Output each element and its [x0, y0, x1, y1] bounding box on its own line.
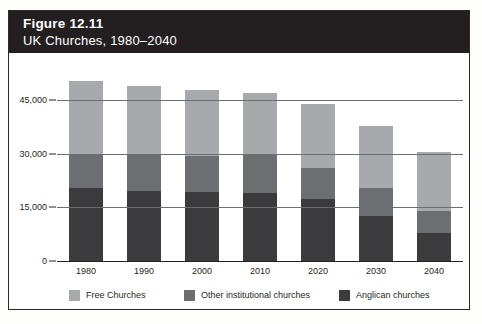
figure-title-banner: Figure 12.11 UK Churches, 1980–2040: [9, 11, 469, 53]
bar-segment-other-institutional-churches[interactable]: [301, 168, 335, 199]
figure-number: Figure 12.11: [23, 16, 469, 32]
legend-swatch-anglican: [339, 290, 350, 301]
legend-label: Other institutional churches: [201, 290, 310, 300]
x-axis-tick-label: 1980: [57, 266, 115, 276]
x-axis-tick-label: 1990: [115, 266, 173, 276]
plot-area: 1980199020002010202020302040: [57, 53, 463, 310]
y-axis-tick-label: 45,000: [19, 95, 47, 105]
bar-stack[interactable]: [127, 86, 161, 261]
x-axis-baseline: [57, 261, 463, 262]
bar-segment-other-institutional-churches[interactable]: [185, 156, 219, 192]
bar-segment-free-churches[interactable]: [243, 93, 277, 156]
legend-item[interactable]: Free Churches: [69, 288, 146, 302]
figure-page: Figure 12.11 UK Churches, 1980–2040 015,…: [0, 0, 482, 324]
chart-legend: Free ChurchesOther institutional churche…: [9, 288, 471, 304]
y-axis-tick-mark: [49, 100, 56, 101]
bar-stack[interactable]: [243, 93, 277, 261]
x-axis-tick-label: 2000: [173, 266, 231, 276]
y-axis-tick-label: 15,000: [19, 202, 47, 212]
y-axis: 015,00030,00045,000: [9, 53, 57, 310]
bar-segment-anglican-churches[interactable]: [417, 233, 451, 261]
gridline: [57, 154, 463, 155]
y-axis-tick-label: 0: [42, 256, 47, 266]
bar-segment-free-churches[interactable]: [359, 126, 393, 188]
bar-segment-other-institutional-churches[interactable]: [417, 211, 451, 233]
bar-stack[interactable]: [359, 126, 393, 261]
bar-stack[interactable]: [69, 81, 103, 261]
bar-segment-free-churches[interactable]: [127, 86, 161, 155]
chart-plot-wrapper: 015,00030,00045,000 19801990200020102020…: [9, 53, 471, 310]
bar-segment-other-institutional-churches[interactable]: [69, 154, 103, 188]
legend-item[interactable]: Anglican churches: [339, 288, 430, 302]
legend-label: Anglican churches: [356, 290, 430, 300]
bar-segment-other-institutional-churches[interactable]: [127, 155, 161, 191]
bar-segment-anglican-churches[interactable]: [185, 192, 219, 261]
bar-segment-anglican-churches[interactable]: [243, 193, 277, 261]
x-axis-tick-label: 2010: [231, 266, 289, 276]
legend-label: Free Churches: [86, 290, 146, 300]
bar-segment-other-institutional-churches[interactable]: [359, 188, 393, 216]
bar-segment-free-churches[interactable]: [301, 104, 335, 167]
y-axis-tick-label: 30,000: [19, 149, 47, 159]
figure-subtitle: UK Churches, 1980–2040: [23, 32, 469, 49]
bar-segment-free-churches[interactable]: [69, 81, 103, 154]
legend-swatch-free: [69, 290, 80, 301]
figure-container: Figure 12.11 UK Churches, 1980–2040 015,…: [8, 10, 470, 310]
legend-item[interactable]: Other institutional churches: [184, 288, 310, 302]
bar-segment-anglican-churches[interactable]: [69, 188, 103, 261]
y-axis-tick-mark: [49, 261, 56, 262]
x-axis-tick-label: 2040: [405, 266, 463, 276]
y-axis-tick-mark: [49, 207, 56, 208]
y-axis-tick-mark: [49, 153, 56, 154]
bar-segment-other-institutional-churches[interactable]: [243, 155, 277, 193]
bar-segment-anglican-churches[interactable]: [127, 191, 161, 261]
bar-segment-anglican-churches[interactable]: [359, 216, 393, 261]
x-axis-tick-label: 2020: [289, 266, 347, 276]
bar-stack[interactable]: [301, 104, 335, 261]
bar-stack[interactable]: [185, 90, 219, 261]
legend-swatch-other: [184, 290, 195, 301]
x-axis-tick-label: 2030: [347, 266, 405, 276]
gridline: [57, 207, 463, 208]
gridline: [57, 100, 463, 101]
bar-segment-free-churches[interactable]: [417, 152, 451, 211]
